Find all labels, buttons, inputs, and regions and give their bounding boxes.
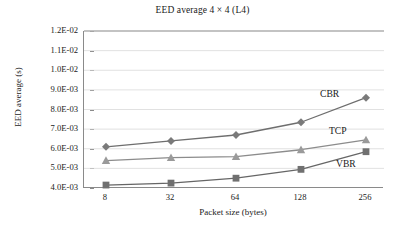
y-tick-label: 4.0E-03 — [18, 183, 78, 192]
chart-container: EED average 4 × 4 (L4) 1.2E-021.1E-021.0… — [0, 0, 405, 228]
series-label-cbr: CBR — [320, 88, 339, 99]
series-label-vbr: VBR — [336, 158, 356, 169]
y-axis-title: EED average (s) — [13, 37, 23, 157]
x-axis-title: Packet size (bytes) — [83, 207, 383, 217]
x-tick-label: 64 — [215, 192, 255, 202]
x-tick-label: 8 — [85, 192, 125, 202]
data-point-vbr — [168, 180, 175, 187]
y-tick-label: 6.0E-03 — [18, 144, 78, 153]
data-point-cbr — [297, 118, 305, 126]
x-tick-label: 128 — [280, 192, 320, 202]
data-point-cbr — [102, 143, 110, 151]
data-point-cbr — [362, 94, 370, 102]
x-tick-label: 32 — [150, 192, 190, 202]
data-point-vbr — [233, 175, 240, 182]
series-line-cbr — [106, 98, 366, 147]
series-label-tcp: TCP — [329, 125, 347, 136]
data-point-cbr — [167, 137, 175, 145]
data-point-vbr — [103, 182, 110, 189]
y-tick-label: 1.0E-02 — [18, 65, 78, 74]
y-tick-label: 8.0E-03 — [18, 105, 78, 114]
data-point-tcp — [362, 136, 370, 144]
y-tick-label: 9.0E-03 — [18, 85, 78, 94]
y-tick-label: 7.0E-03 — [18, 124, 78, 133]
x-tick-label: 256 — [345, 192, 385, 202]
y-tick-mark — [90, 188, 94, 189]
data-point-vbr — [363, 148, 370, 155]
data-point-vbr — [298, 166, 305, 173]
data-point-cbr — [232, 131, 240, 139]
y-tick-label: 1.1E-02 — [18, 46, 78, 55]
y-tick-label: 5.0E-03 — [18, 163, 78, 172]
y-tick-label: 1.2E-02 — [18, 26, 78, 35]
